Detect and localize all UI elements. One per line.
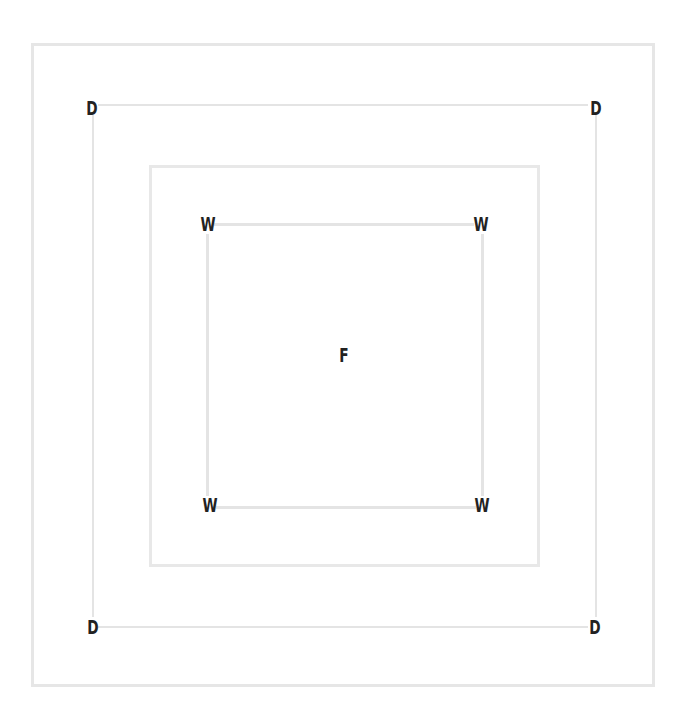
w-edge-top: [214, 223, 474, 226]
label-w-bottom-left: W: [202, 496, 217, 515]
d-edge-bottom: [98, 626, 588, 628]
w-edge-bottom: [216, 506, 476, 509]
w-edge-right: [481, 234, 484, 496]
diagram-canvas: D D D D W W W W F: [0, 0, 687, 713]
label-d-bottom-left: D: [87, 618, 98, 637]
label-w-bottom-right: W: [474, 496, 489, 515]
w-edge-left: [206, 234, 209, 496]
d-edge-top: [98, 104, 588, 106]
label-d-top-left: D: [86, 99, 97, 118]
d-edge-right: [595, 115, 597, 617]
label-w-top-right: W: [473, 215, 488, 234]
label-d-top-right: D: [590, 99, 601, 118]
d-edge-left: [92, 115, 94, 617]
label-w-top-left: W: [200, 215, 215, 234]
label-d-bottom-right: D: [589, 618, 600, 637]
label-center-f: F: [339, 346, 348, 365]
